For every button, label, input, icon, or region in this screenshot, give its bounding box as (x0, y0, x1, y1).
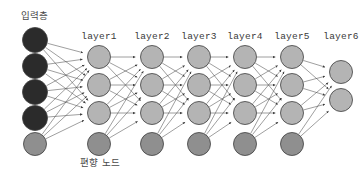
connection-edge (304, 76, 325, 82)
connection-edge (209, 91, 230, 104)
connection-edge (47, 70, 83, 81)
hidden-node (234, 102, 257, 125)
input-node (23, 28, 48, 53)
connection-edge (109, 121, 137, 138)
hidden-node (281, 74, 304, 97)
hidden-node (141, 74, 164, 97)
hidden-node (234, 74, 257, 97)
layer-label-layer3: layer3 (181, 31, 217, 42)
connection-edge (48, 43, 83, 52)
connection-edge (42, 70, 89, 134)
connection-edge (209, 63, 230, 76)
connection-edge (304, 104, 325, 110)
hidden-node (188, 102, 211, 125)
layer-label-layer4: layer4 (227, 31, 263, 42)
connection-edge (301, 83, 328, 106)
input-node (23, 106, 48, 131)
network-nodes (23, 28, 353, 156)
connection-edge (160, 66, 189, 100)
layer-label-layer5: layer5 (274, 31, 310, 42)
connection-edge (162, 66, 184, 79)
connection-edge (301, 65, 328, 89)
input-node (23, 54, 48, 79)
connection-edge (255, 66, 277, 79)
bias-node-label: 편향 노드 (80, 157, 119, 168)
connection-edge (110, 63, 138, 78)
layer-label-layer6: layer6 (323, 31, 359, 42)
bias-node (141, 133, 164, 156)
connection-edge (255, 122, 278, 137)
hidden-node (281, 102, 304, 125)
connection-edge (162, 91, 184, 104)
hidden-node (234, 46, 257, 69)
layer-labels: layer1layer2layer3layer4layer5layer6 (81, 31, 359, 42)
bias-node (234, 133, 257, 156)
connection-edge (162, 122, 185, 137)
connection-edge (253, 66, 282, 100)
hidden-node (141, 46, 164, 69)
connection-edge (46, 120, 84, 138)
bias-node (188, 133, 211, 156)
bias-node (281, 133, 304, 156)
connection-edge (162, 94, 184, 107)
connection-edge (207, 66, 235, 100)
hidden-node (88, 102, 111, 125)
connection-edge (162, 63, 184, 76)
output-node (330, 89, 353, 112)
input-layer-label: 입력층 (21, 10, 48, 21)
connection-edge (303, 61, 325, 68)
connection-edge (107, 66, 140, 101)
connection-edge (48, 59, 83, 64)
connection-edge (209, 122, 231, 137)
hidden-node (188, 74, 211, 97)
connection-edge (105, 71, 143, 133)
neural-network-diagram: layer1layer2layer3layer4layer5layer6 입력층… (0, 0, 364, 177)
connection-edge (46, 65, 84, 86)
layer-label-layer2: layer2 (134, 31, 170, 42)
connection-edge (47, 96, 83, 108)
hidden-node (281, 46, 304, 69)
connection-edge (110, 93, 138, 108)
connection-edge (107, 69, 140, 104)
connection-edge (207, 70, 235, 104)
bias-node (88, 133, 111, 156)
connection-edge (48, 114, 82, 117)
hidden-node (88, 74, 111, 97)
connection-edge (209, 66, 230, 79)
hidden-node (188, 46, 211, 69)
connection-edge (253, 70, 282, 104)
input-node (23, 80, 48, 105)
hidden-node (141, 102, 164, 125)
network-canvas: layer1layer2layer3layer4layer5layer6 입력층… (0, 0, 364, 177)
connection-edge (255, 63, 277, 76)
connection-edge (48, 87, 82, 91)
output-node (330, 61, 353, 84)
layer-label-layer1: layer1 (81, 31, 117, 42)
bias-node (24, 133, 47, 156)
connection-edge (160, 70, 189, 104)
connection-edge (255, 94, 277, 107)
hidden-node (88, 46, 111, 69)
connection-edge (255, 91, 277, 104)
connection-edge (301, 111, 329, 136)
